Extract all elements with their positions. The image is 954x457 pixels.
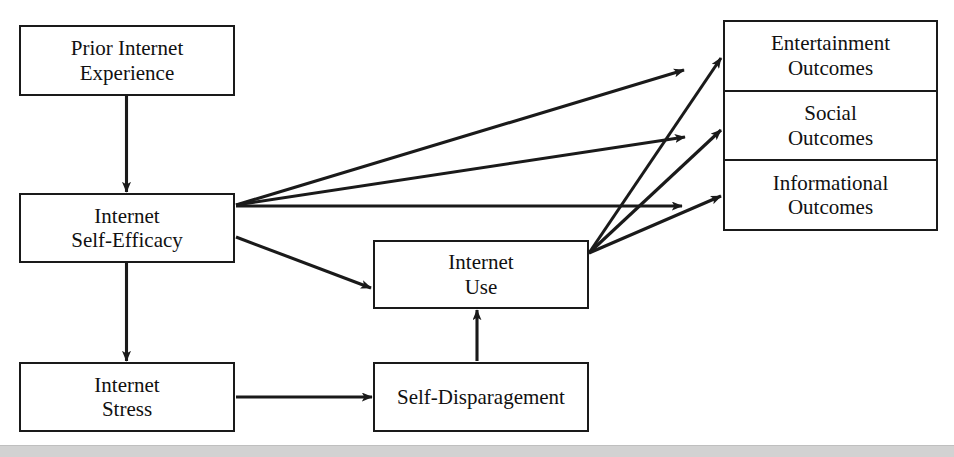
node-label-line2: Experience [80, 61, 174, 85]
node-label-line1: Entertainment [771, 31, 890, 55]
node-internet-self-efficacy: Internet Self-Efficacy [19, 193, 235, 263]
node-outcomes-group: Entertainment Outcomes Social Outcomes I… [723, 20, 938, 231]
node-label-line1: Internet [94, 373, 159, 397]
node-label-line1: Prior Internet [71, 36, 184, 60]
node-label-line2: Outcomes [788, 195, 873, 219]
node-self-disparagement: Self-Disparagement [373, 362, 589, 432]
node-informational-outcomes: Informational Outcomes [725, 159, 936, 229]
node-label-line2: Self-Efficacy [71, 228, 183, 252]
node-label-line2: Outcomes [788, 126, 873, 150]
diagram-canvas: Prior Internet Experience Internet Self-… [0, 0, 954, 457]
node-entertainment-outcomes: Entertainment Outcomes [725, 22, 936, 90]
edge-self-efficacy-to-internet-use [236, 237, 371, 288]
edge-self-efficacy-to-entertainment-outcomes [236, 70, 684, 205]
node-social-outcomes: Social Outcomes [725, 90, 936, 160]
node-label-line1: Internet [94, 204, 159, 228]
node-label-line2: Use [465, 275, 498, 299]
node-label-line1: Self-Disparagement [397, 385, 565, 409]
edge-self-efficacy-to-social-outcomes [236, 137, 685, 205]
node-label-line2: Outcomes [788, 56, 873, 80]
node-prior-internet-experience: Prior Internet Experience [19, 25, 235, 96]
node-label-line1: Internet [448, 250, 513, 274]
node-label-line1: Social [804, 101, 857, 125]
node-label-line2: Stress [102, 397, 152, 421]
node-label-line1: Informational [773, 171, 888, 195]
footer-bar [0, 445, 954, 457]
node-internet-use: Internet Use [373, 240, 589, 309]
node-internet-stress: Internet Stress [19, 362, 235, 432]
